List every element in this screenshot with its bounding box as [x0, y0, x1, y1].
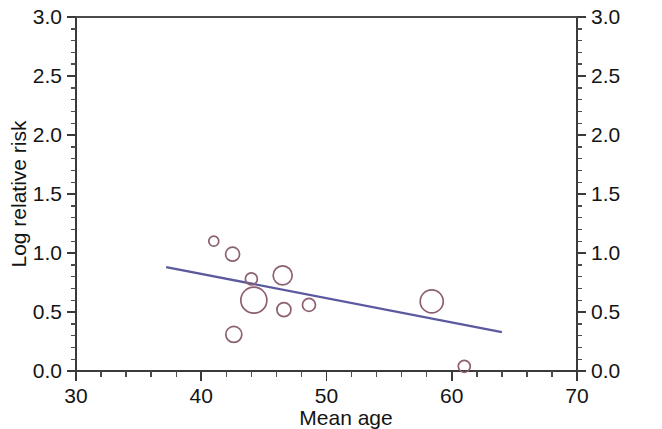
- x-tick-label: 50: [315, 384, 338, 407]
- y-tick-label-left: 0.5: [33, 300, 62, 323]
- y-tick-label-left: 2.0: [33, 123, 62, 146]
- y-tick-label-right: 0.5: [591, 300, 620, 323]
- x-axis-title: Mean age: [299, 406, 392, 429]
- data-point-circle: [209, 236, 219, 246]
- y-tick-label-right: 1.5: [591, 182, 620, 205]
- data-point-circle: [241, 287, 267, 313]
- y-tick-label-right: 2.5: [591, 64, 620, 87]
- data-point-circle: [226, 247, 240, 261]
- y-tick-label-left: 1.0: [33, 241, 62, 264]
- y-tick-label-right: 3.0: [591, 5, 620, 28]
- y-tick-label-right: 0.0: [591, 359, 620, 382]
- y-tick-label-right: 1.0: [591, 241, 620, 264]
- data-point-circle: [273, 266, 292, 285]
- chart-canvas: 0.00.00.50.51.01.01.51.52.02.02.52.53.03…: [0, 0, 662, 429]
- data-point-circle: [302, 298, 315, 311]
- y-axis-title: Log relative risk: [7, 120, 30, 268]
- y-tick-label-left: 0.0: [33, 359, 62, 382]
- y-tick-label-left: 3.0: [33, 5, 62, 28]
- y-tick-label-right: 2.0: [591, 123, 620, 146]
- x-tick-label: 40: [190, 384, 213, 407]
- axes-group: [76, 17, 577, 371]
- data-point-circle: [226, 326, 242, 342]
- x-tick-label: 60: [440, 384, 463, 407]
- regression-line: [166, 267, 502, 332]
- scatter-plot-figure: 0.00.00.50.51.01.01.51.52.02.02.52.53.03…: [0, 0, 662, 429]
- tick-labels-group: 0.00.00.50.51.01.01.51.52.02.02.52.53.03…: [33, 5, 620, 407]
- regression-line-group: [166, 267, 502, 332]
- data-point-circle: [420, 290, 443, 313]
- x-tick-label: 30: [64, 384, 87, 407]
- x-tick-label: 70: [565, 384, 588, 407]
- y-tick-label-left: 1.5: [33, 182, 62, 205]
- y-tick-label-left: 2.5: [33, 64, 62, 87]
- ticks-group: [67, 17, 586, 381]
- data-point-circle: [277, 303, 291, 317]
- data-points-group: [209, 236, 471, 372]
